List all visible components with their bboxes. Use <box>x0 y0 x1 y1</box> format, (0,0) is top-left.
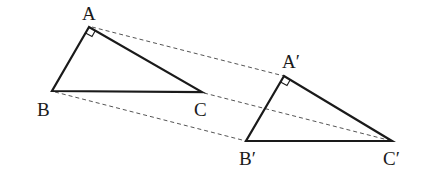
vertex-label-c-prime: C′ <box>383 149 400 168</box>
triangle-abc <box>52 27 202 92</box>
correspondence-lines <box>55 27 392 141</box>
vertex-label-b-prime: B′ <box>239 149 256 168</box>
vertex-label-b: B <box>37 100 50 119</box>
vertex-label-a: A <box>82 4 96 23</box>
triangle-prime-shape <box>246 76 392 141</box>
vertex-label-c: C <box>194 100 207 119</box>
diagram-canvas <box>0 0 432 174</box>
triangle-abc-shape <box>52 27 202 92</box>
dashed-line-a-a-prime <box>92 27 284 76</box>
dashed-line-b-b-prime <box>55 92 246 141</box>
triangle-a-prime-b-prime-c-prime <box>246 76 392 141</box>
vertex-label-a-prime: A′ <box>282 52 300 71</box>
dashed-line-c-c-prime <box>204 93 392 141</box>
